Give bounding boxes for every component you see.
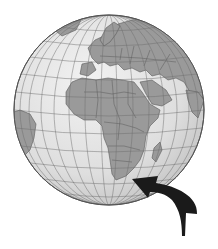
globe bbox=[14, 15, 205, 205]
globe-illustration bbox=[0, 0, 218, 249]
arrow-icon bbox=[132, 176, 197, 236]
